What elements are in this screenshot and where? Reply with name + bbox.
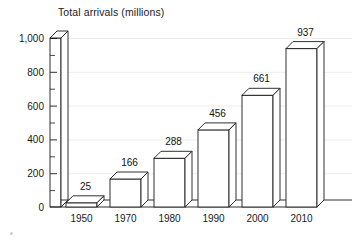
x-axis-label-2010: 2010 <box>279 213 324 224</box>
bar-2000[interactable] <box>242 88 280 207</box>
bar-1990[interactable] <box>198 123 236 207</box>
bar-1970-front <box>110 179 141 207</box>
bar-value-label-2000: 661 <box>239 73 284 84</box>
x-axis-label-2000: 2000 <box>235 213 280 224</box>
y-axis-label-1000: 1,000 <box>0 33 44 44</box>
bar-1950[interactable] <box>66 196 104 207</box>
bar-1980-side <box>185 151 192 207</box>
bar-1970[interactable] <box>110 172 148 207</box>
bar-value-label-1950: 25 <box>63 181 108 192</box>
scan-artifact <box>10 232 13 235</box>
bar-2000-side <box>273 88 280 207</box>
x-axis-label-1970: 1970 <box>103 213 148 224</box>
y-axis-label-0: 0 <box>0 202 44 213</box>
bar-1990-front <box>198 130 229 207</box>
y-axis-label-600: 600 <box>0 101 44 112</box>
bar-1950-front <box>66 203 97 207</box>
bar-value-label-1980: 288 <box>151 136 196 147</box>
y-axis-label-800: 800 <box>0 67 44 78</box>
bar-1980-front <box>154 158 185 207</box>
bar-value-label-1990: 456 <box>195 108 240 119</box>
x-axis-label-1950: 1950 <box>59 213 104 224</box>
x-axis-label-1990: 1990 <box>191 213 236 224</box>
x-axis-label-1980: 1980 <box>147 213 192 224</box>
bar-chart-figure: Total arrivals (millions) <box>0 0 362 241</box>
y-axis-front-face <box>50 38 61 207</box>
bar-1980[interactable] <box>154 151 192 207</box>
y-axis-label-400: 400 <box>0 134 44 145</box>
bar-2010-side <box>317 42 324 207</box>
bar-value-label-2010: 937 <box>283 27 328 38</box>
y-axis-label-200: 200 <box>0 168 44 179</box>
bar-2010[interactable] <box>286 42 324 207</box>
bar-1990-side <box>229 123 236 207</box>
bar-2000-front <box>242 95 273 207</box>
bar-2010-front <box>286 49 317 207</box>
bar-value-label-1970: 166 <box>107 157 152 168</box>
